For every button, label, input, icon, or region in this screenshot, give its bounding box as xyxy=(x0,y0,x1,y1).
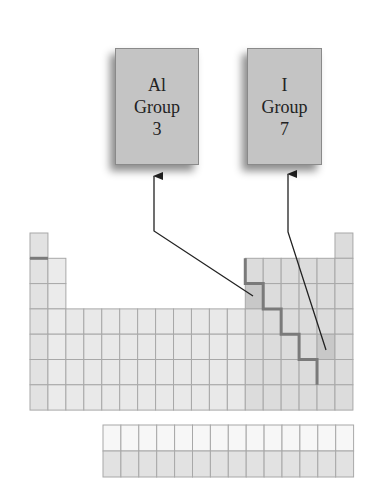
element-cell xyxy=(317,309,335,334)
f-block-cell xyxy=(193,425,211,451)
element-cell xyxy=(120,309,138,334)
f-block-cell xyxy=(175,425,193,451)
element-cell xyxy=(48,284,66,309)
element-cell xyxy=(245,360,263,385)
element-cell xyxy=(245,334,263,359)
i-element-symbol: I xyxy=(282,74,288,96)
element-cell xyxy=(66,360,84,385)
al-element-symbol: Al xyxy=(148,74,166,96)
element-cell xyxy=(174,385,192,410)
f-block-cell xyxy=(300,451,318,477)
element-cell xyxy=(317,284,335,309)
element-cell xyxy=(263,385,281,410)
i-group-label: I Group 7 xyxy=(247,48,322,165)
element-cell xyxy=(48,258,66,283)
f-block-cell xyxy=(103,425,121,451)
element-cell xyxy=(138,385,156,410)
f-block-cell xyxy=(139,425,157,451)
f-block-cell xyxy=(264,425,282,451)
element-cell xyxy=(102,334,120,359)
element-cell xyxy=(84,385,102,410)
f-block-cell xyxy=(121,425,139,451)
element-cell xyxy=(30,360,48,385)
f-block-cell xyxy=(282,425,300,451)
element-cell xyxy=(48,309,66,334)
element-cell xyxy=(281,385,299,410)
element-cell xyxy=(245,284,263,309)
element-cell xyxy=(30,284,48,309)
element-cell xyxy=(191,385,209,410)
f-block-cell xyxy=(336,425,354,451)
element-cell xyxy=(299,309,317,334)
element-cell xyxy=(263,309,281,334)
element-cell xyxy=(102,360,120,385)
element-cell xyxy=(120,385,138,410)
element-cell xyxy=(299,360,317,385)
f-block-cell xyxy=(318,425,336,451)
f-block-cell xyxy=(228,425,246,451)
element-cell xyxy=(156,360,174,385)
f-block-cell xyxy=(246,425,264,451)
element-cell xyxy=(227,309,245,334)
element-cell xyxy=(156,334,174,359)
f-block-cell xyxy=(210,451,228,477)
element-cell xyxy=(102,309,120,334)
element-cell xyxy=(263,284,281,309)
element-cell xyxy=(227,360,245,385)
f-block-cell xyxy=(175,451,193,477)
element-cell xyxy=(227,385,245,410)
element-cell xyxy=(48,334,66,359)
element-cell xyxy=(317,334,335,359)
element-cell xyxy=(245,385,263,410)
element-cell xyxy=(209,309,227,334)
f-block-cell xyxy=(103,451,121,477)
f-block-cell xyxy=(264,451,282,477)
element-cell xyxy=(156,385,174,410)
i-group-number: 7 xyxy=(280,118,289,140)
element-cell xyxy=(317,385,335,410)
element-cell xyxy=(66,309,84,334)
element-cell xyxy=(30,385,48,410)
element-cell xyxy=(281,334,299,359)
element-cell xyxy=(335,309,353,334)
f-block-cell xyxy=(228,451,246,477)
element-cell xyxy=(335,258,353,283)
element-cell xyxy=(174,334,192,359)
f-block-cell xyxy=(157,425,175,451)
f-block-cell xyxy=(210,425,228,451)
element-cell xyxy=(281,258,299,283)
element-cell xyxy=(191,309,209,334)
i-group-word: Group xyxy=(262,96,308,118)
element-cell xyxy=(263,258,281,283)
element-cell xyxy=(120,360,138,385)
al-group-number: 3 xyxy=(153,118,162,140)
element-cell xyxy=(30,258,48,283)
element-cell xyxy=(227,334,245,359)
f-block-cell xyxy=(139,451,157,477)
element-cell xyxy=(120,334,138,359)
element-cell xyxy=(191,334,209,359)
element-cell xyxy=(335,360,353,385)
element-cell xyxy=(138,309,156,334)
element-cell xyxy=(30,334,48,359)
element-cell xyxy=(66,334,84,359)
element-cell xyxy=(138,334,156,359)
al-group-word: Group xyxy=(134,96,180,118)
element-cell xyxy=(156,309,174,334)
element-cell xyxy=(30,309,48,334)
element-cell xyxy=(317,258,335,283)
element-cell xyxy=(299,258,317,283)
f-block-cell xyxy=(318,451,336,477)
f-block-cell xyxy=(300,425,318,451)
f-block-cell xyxy=(336,451,354,477)
element-cell xyxy=(138,360,156,385)
element-cell xyxy=(84,360,102,385)
element-cell xyxy=(281,309,299,334)
element-cell xyxy=(102,385,120,410)
f-block-cell xyxy=(246,451,264,477)
element-cell xyxy=(263,334,281,359)
f-block-cell xyxy=(121,451,139,477)
element-cell xyxy=(209,360,227,385)
element-cell xyxy=(48,360,66,385)
element-cell xyxy=(299,385,317,410)
